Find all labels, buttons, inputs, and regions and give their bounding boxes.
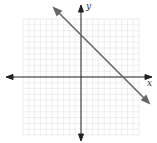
axes xyxy=(6,5,152,141)
y-axis-down-arrow-icon xyxy=(79,134,84,141)
x-axis-label: x xyxy=(147,78,152,88)
y-axis-up-arrow-icon xyxy=(79,5,84,12)
x-axis-left-arrow-icon xyxy=(6,75,13,80)
coordinate-plane xyxy=(0,0,157,143)
y-axis-label: y xyxy=(86,1,91,11)
